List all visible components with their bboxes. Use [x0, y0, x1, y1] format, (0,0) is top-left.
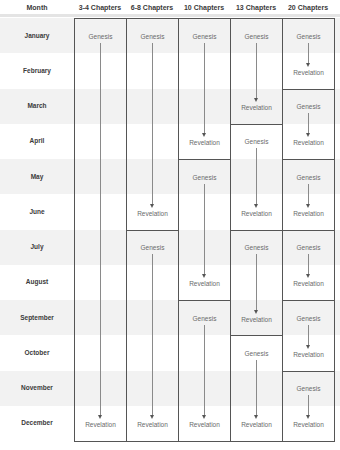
- reading-segment: GenesisRevelation: [282, 371, 335, 443]
- segment-end-label: Revelation: [231, 315, 282, 324]
- arrow-line: [152, 43, 153, 204]
- reading-segment: GenesisRevelation: [126, 230, 179, 443]
- month-label-october: October: [0, 348, 74, 358]
- month-label-november: November: [0, 383, 74, 393]
- arrow-down-icon: [202, 415, 206, 419]
- arrow-line: [204, 43, 205, 134]
- segment-end-label: Revelation: [179, 138, 230, 147]
- arrow-down-icon: [306, 415, 310, 419]
- segment-start-label: Genesis: [127, 32, 178, 41]
- header-6-8-chapters: 6-8 Chapters: [126, 2, 178, 14]
- reading-segment: GenesisRevelation: [178, 159, 231, 301]
- reading-segment: GenesisRevelation: [230, 124, 283, 231]
- segment-end-label: Revelation: [127, 209, 178, 218]
- segment-start-label: Genesis: [179, 173, 230, 182]
- reading-segment: GenesisRevelation: [282, 300, 335, 372]
- arrow-down-icon: [202, 133, 206, 137]
- reading-segment: GenesisRevelation: [282, 159, 335, 231]
- segment-start-label: Genesis: [231, 349, 282, 358]
- segment-start-label: Genesis: [231, 32, 282, 41]
- month-label-january: January: [0, 31, 74, 41]
- arrow-down-icon: [254, 98, 258, 102]
- arrow-line: [256, 254, 257, 310]
- segment-start-label: Genesis: [75, 32, 126, 41]
- arrow-line: [308, 43, 309, 63]
- arrow-line: [256, 148, 257, 204]
- arrow-down-icon: [98, 415, 102, 419]
- reading-segment: GenesisRevelation: [282, 18, 335, 90]
- segment-end-label: Revelation: [75, 420, 126, 429]
- header-20-chapters: 20 Chapters: [282, 2, 334, 14]
- reading-segment: GenesisRevelation: [178, 300, 231, 442]
- header-divider: [0, 14, 340, 17]
- segment-end-label: Revelation: [179, 279, 230, 288]
- segment-end-label: Revelation: [231, 103, 282, 112]
- segment-start-label: Genesis: [283, 314, 334, 323]
- segment-start-label: Genesis: [283, 102, 334, 111]
- month-label-february: February: [0, 66, 74, 76]
- arrow-line: [204, 184, 205, 275]
- reading-segment: GenesisRevelation: [230, 335, 283, 442]
- month-label-september: September: [0, 313, 74, 323]
- arrow-down-icon: [254, 310, 258, 314]
- segment-start-label: Genesis: [283, 32, 334, 41]
- arrow-down-icon: [254, 204, 258, 208]
- reading-segment: GenesisRevelation: [126, 18, 179, 231]
- arrow-down-icon: [202, 274, 206, 278]
- arrow-line: [256, 360, 257, 416]
- arrow-down-icon: [306, 204, 310, 208]
- segment-end-label: Revelation: [179, 420, 230, 429]
- segment-start-label: Genesis: [283, 243, 334, 252]
- segment-end-label: Revelation: [283, 68, 334, 77]
- segment-start-label: Genesis: [179, 314, 230, 323]
- arrow-down-icon: [306, 133, 310, 137]
- arrow-line: [308, 113, 309, 133]
- segment-end-label: Revelation: [283, 420, 334, 429]
- arrow-down-icon: [150, 415, 154, 419]
- month-label-march: March: [0, 101, 74, 111]
- arrow-line: [308, 395, 309, 415]
- arrow-line: [308, 184, 309, 204]
- reading-segment: GenesisRevelation: [282, 89, 335, 161]
- segment-start-label: Genesis: [127, 243, 178, 252]
- segment-start-label: Genesis: [179, 32, 230, 41]
- segment-end-label: Revelation: [283, 279, 334, 288]
- arrow-line: [308, 325, 309, 345]
- reading-segment: GenesisRevelation: [74, 18, 127, 442]
- reading-segment: GenesisRevelation: [178, 18, 231, 160]
- month-label-december: December: [0, 418, 74, 428]
- segment-end-label: Revelation: [283, 138, 334, 147]
- header-10-chapters: 10 Chapters: [178, 2, 230, 14]
- segment-end-label: Revelation: [231, 420, 282, 429]
- bible-reading-plan-diagram: Month 3-4 Chapters 6-8 Chapters 10 Chapt…: [0, 0, 340, 450]
- arrow-line: [100, 43, 101, 416]
- segment-end-label: Revelation: [127, 420, 178, 429]
- reading-segment: GenesisRevelation: [282, 230, 335, 302]
- arrow-down-icon: [306, 345, 310, 349]
- arrow-down-icon: [254, 415, 258, 419]
- arrow-down-icon: [150, 204, 154, 208]
- month-label-may: May: [0, 172, 74, 182]
- segment-end-label: Revelation: [231, 209, 282, 218]
- month-label-july: July: [0, 242, 74, 252]
- header-13-chapters: 13 Chapters: [230, 2, 282, 14]
- arrow-line: [204, 325, 205, 416]
- segment-start-label: Genesis: [231, 243, 282, 252]
- reading-segment: GenesisRevelation: [230, 18, 283, 125]
- month-label-april: April: [0, 136, 74, 146]
- segment-end-label: Revelation: [283, 350, 334, 359]
- header-3-4-chapters: 3-4 Chapters: [74, 2, 126, 14]
- reading-segment: GenesisRevelation: [230, 230, 283, 337]
- header-month: Month: [0, 2, 74, 14]
- arrow-down-icon: [306, 274, 310, 278]
- month-label-june: June: [0, 207, 74, 217]
- arrow-down-icon: [306, 63, 310, 67]
- arrow-line: [308, 254, 309, 274]
- segment-start-label: Genesis: [283, 173, 334, 182]
- arrow-line: [152, 254, 153, 415]
- arrow-line: [256, 43, 257, 99]
- month-label-august: August: [0, 277, 74, 287]
- segment-start-label: Genesis: [283, 384, 334, 393]
- segment-start-label: Genesis: [231, 137, 282, 146]
- segment-end-label: Revelation: [283, 209, 334, 218]
